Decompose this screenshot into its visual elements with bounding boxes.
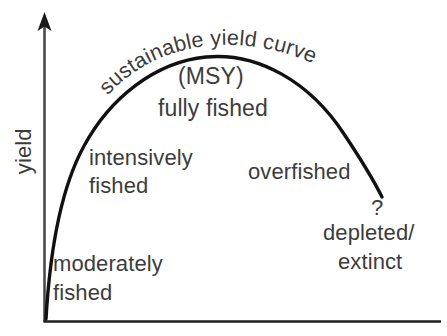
annotation-depleted: depleted/ (323, 221, 414, 246)
annotation-msy: (MSY) (178, 64, 244, 90)
annotation-moderately-fished: fished (53, 281, 112, 306)
annotation-fully-fished: fully fished (158, 96, 268, 122)
annotation-intensively: intensively (89, 146, 193, 171)
annotation-question-mark: ? (371, 196, 383, 221)
annotation-overfished: overfished (248, 160, 351, 185)
annotation-moderately: moderately (53, 252, 163, 277)
annotation-extinct: extinct (338, 250, 402, 275)
y-axis-label: yield (12, 121, 37, 181)
sustainable-yield-curve-figure: sustainable yield curve yield (MSY) full… (0, 0, 447, 336)
annotation-intensively-fished: fished (89, 174, 148, 199)
